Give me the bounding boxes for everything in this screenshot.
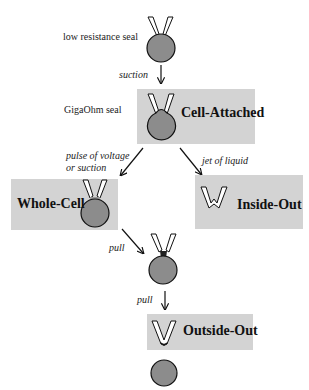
outside-out-title: Outside-Out: [183, 323, 258, 339]
outside-out-figure: [152, 321, 176, 346]
pull-label-2: pull: [137, 294, 153, 305]
inside-out-figure: [201, 187, 227, 208]
cell-attached-title: Cell-Attached: [181, 105, 264, 121]
pipette-icon: [152, 321, 176, 346]
cell-icon: [149, 256, 177, 284]
pulled-cell-figure: [149, 234, 177, 284]
jet-arrow: [180, 148, 201, 174]
inside-out-title: Inside-Out: [237, 197, 302, 213]
suction-label: suction: [119, 69, 148, 80]
whole-cell-title: Whole-Cell: [17, 196, 85, 212]
cell-attached-figure: [148, 94, 176, 140]
pull-arrow-1: [122, 229, 143, 253]
pipette-icon: [83, 180, 107, 198]
cell-icon: [147, 34, 175, 62]
pipette-icon: [148, 17, 173, 36]
pull-label-1: pull: [109, 242, 125, 253]
pipette-icon: [201, 187, 227, 208]
low-resistance-seal-figure: [147, 17, 175, 62]
pipette-icon: [151, 234, 176, 252]
pulse-label-line2: or suction: [66, 162, 106, 173]
jet-label: jet of liquid: [202, 155, 248, 166]
detached-cell-icon: [151, 360, 177, 386]
cell-icon: [148, 110, 176, 140]
cell-icon: [81, 199, 109, 227]
whole-cell-figure: [81, 180, 109, 227]
pulse-label-line1: pulse of voltage: [66, 150, 129, 161]
gigaohm-seal-label: GigaOhm seal: [64, 104, 122, 115]
low-resistance-seal-label: low resistance seal: [63, 31, 138, 42]
patch-clamp-diagram: [0, 0, 309, 390]
